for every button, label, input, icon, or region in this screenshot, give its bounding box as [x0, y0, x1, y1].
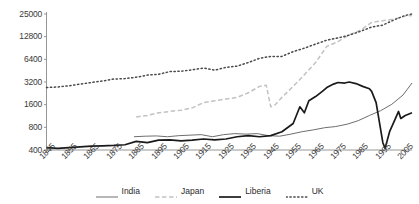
- series-line-liberia: [47, 82, 413, 148]
- legend-swatch-icon: [155, 187, 177, 195]
- series-line-uk: [47, 14, 413, 88]
- legend-item-liberia[interactable]: Liberia: [219, 186, 271, 196]
- y-tick-label: 800: [2, 122, 42, 132]
- y-tick-label: 400: [2, 145, 42, 155]
- y-tick-label: 3200: [2, 77, 42, 87]
- legend-item-japan[interactable]: Japan: [155, 186, 204, 196]
- plot-area: [0, 0, 419, 204]
- y-tick-label: 6400: [2, 54, 42, 64]
- chart-legend: IndiaJapanLiberiaUK: [0, 183, 419, 199]
- legend-label: UK: [312, 186, 324, 196]
- y-tick-label: 1600: [2, 99, 42, 109]
- y-tick-label: 25000: [2, 9, 42, 19]
- legend-item-india[interactable]: India: [96, 186, 140, 196]
- legend-label: Japan: [181, 186, 204, 196]
- legend-swatch-icon: [286, 187, 308, 195]
- line-chart: 4008001600320064001280025000 18451855186…: [0, 0, 419, 204]
- y-tick-label: 12800: [2, 31, 42, 41]
- series-line-japan: [136, 15, 412, 117]
- legend-label: India: [122, 186, 140, 196]
- legend-label: Liberia: [245, 186, 271, 196]
- legend-swatch-icon: [219, 187, 241, 195]
- legend-item-uk[interactable]: UK: [286, 186, 324, 196]
- legend-swatch-icon: [96, 187, 118, 195]
